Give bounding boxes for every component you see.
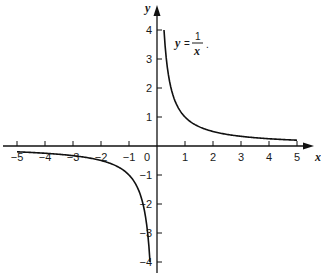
x-tick-label: 5 bbox=[294, 151, 300, 163]
x-tick-label: 4 bbox=[266, 151, 272, 163]
x-axis-arrow-icon bbox=[303, 143, 314, 150]
equation-lhs: y bbox=[173, 36, 181, 50]
x-tick-label: −5 bbox=[11, 151, 24, 163]
x-axis-ticks: −5−4−3−2−1012345 bbox=[11, 141, 300, 163]
y-axis-label: y bbox=[143, 1, 151, 15]
x-tick-label: 2 bbox=[210, 151, 216, 163]
curve-negative-branch bbox=[17, 152, 150, 262]
hyperbola-chart: −5−4−3−2−1012345 −4−3−2−11234 x y y = 1 … bbox=[0, 0, 321, 278]
equation-numerator: 1 bbox=[195, 31, 201, 42]
x-tick-label: 3 bbox=[238, 151, 244, 163]
x-tick-label: −1 bbox=[123, 151, 136, 163]
y-tick-label: −1 bbox=[139, 169, 152, 181]
y-tick-label: −3 bbox=[139, 227, 152, 239]
equation-annotation: y = 1 x . bbox=[173, 31, 209, 58]
x-axis-label: x bbox=[314, 150, 321, 164]
x-tick-label: 0 bbox=[144, 151, 150, 163]
x-tick-label: 1 bbox=[182, 151, 188, 163]
equation-equals: = bbox=[184, 38, 190, 49]
y-tick-label: 4 bbox=[146, 24, 152, 36]
y-axis-arrow-icon bbox=[154, 5, 161, 16]
y-tick-label: 1 bbox=[146, 111, 152, 123]
y-tick-label: 2 bbox=[146, 82, 152, 94]
y-tick-label: 3 bbox=[146, 53, 152, 65]
equation-period: . bbox=[206, 39, 209, 50]
equation-denominator: x bbox=[193, 44, 200, 58]
